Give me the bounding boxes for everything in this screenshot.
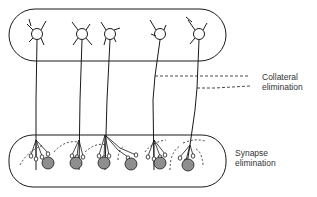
synapse-label-line2: elimination: [235, 158, 276, 168]
collateral-label-line2: elimination: [262, 82, 303, 92]
neuron-4: [150, 20, 166, 170]
lower-region: [9, 135, 226, 187]
collateral-leaders: [155, 76, 250, 88]
terminal-arbors: [31, 135, 193, 160]
synapse-elimination-label: Synapse elimination: [235, 148, 276, 168]
synapse-label-line1: Synapse: [235, 148, 276, 158]
neuron-3: [101, 22, 120, 170]
collateral-elimination-label: Collateral elimination: [262, 72, 303, 92]
collateral-label-line1: Collateral: [262, 72, 303, 82]
